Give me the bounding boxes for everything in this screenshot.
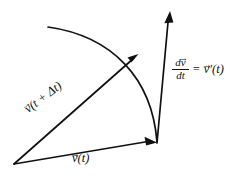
v-glyph: v — [204, 62, 210, 76]
v-vector-symbol: v→ — [72, 152, 78, 165]
label-derivative-equation: dv→ dt = v→′(t) — [172, 57, 224, 81]
diagram-canvas — [0, 0, 240, 176]
derivative-right-hand-side: v→′(t) — [204, 63, 224, 76]
v-vector-symbol: v→ — [204, 63, 210, 76]
vector-v-t-arrowhead — [145, 137, 158, 146]
v-vector-symbol: v→ — [181, 57, 186, 68]
vector-v-t-plus-delta-t-arrowhead — [128, 54, 139, 62]
prime-argument-text: ′(t) — [209, 62, 224, 76]
label-argument-text: (t) — [78, 151, 90, 165]
equals-sign: = — [192, 63, 201, 75]
derivative-fraction: dv→ dt — [172, 57, 189, 81]
fraction-numerator: dv→ — [173, 57, 187, 69]
fraction-denominator: dt — [174, 70, 187, 82]
v-glyph: v — [72, 151, 78, 165]
vector-derivative-diagram: v→(t + Δt) v→(t) dv→ dt = v→′(t) — [0, 0, 240, 176]
trajectory-arc — [48, 27, 157, 142]
derivative-vector-shaft — [157, 18, 168, 143]
v-glyph: v — [181, 56, 186, 68]
label-v-t: v→(t) — [72, 152, 89, 165]
derivative-vector-arrowhead — [164, 11, 173, 23]
